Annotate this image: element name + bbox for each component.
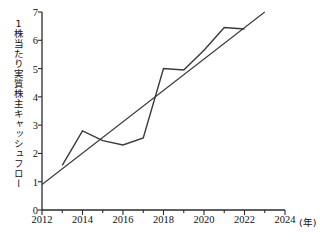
chart-container: 1株当たり実質株主キャッシュフロー 01234567 2012201420162… xyxy=(0,0,320,243)
trend-line xyxy=(42,12,265,185)
x-axis-ticks xyxy=(42,210,285,215)
axis-lines xyxy=(42,12,285,210)
x-axis-unit-label: (年) xyxy=(299,215,316,229)
plot-area xyxy=(0,0,320,243)
